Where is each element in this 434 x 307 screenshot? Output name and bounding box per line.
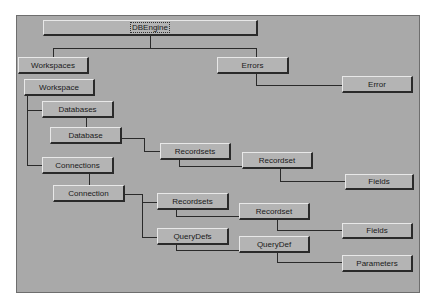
connector bbox=[121, 138, 144, 139]
connector bbox=[176, 216, 239, 217]
node-label: Recordset bbox=[256, 207, 292, 216]
connector bbox=[277, 219, 278, 230]
connector bbox=[277, 252, 278, 262]
connector bbox=[142, 237, 157, 238]
node-label: Recordsets bbox=[175, 147, 215, 156]
connector bbox=[176, 250, 239, 251]
node-label: QueryDefs bbox=[173, 232, 211, 241]
connector bbox=[144, 151, 160, 152]
node-fields: Fields bbox=[342, 223, 413, 239]
node-dbengine: DBEngine bbox=[43, 20, 258, 36]
node-label: Workspaces bbox=[31, 61, 75, 70]
connector bbox=[150, 35, 151, 48]
connector bbox=[27, 165, 42, 166]
connector bbox=[27, 110, 42, 111]
node-recordsets: Recordsets bbox=[160, 143, 231, 160]
connector bbox=[27, 93, 28, 165]
connector bbox=[53, 48, 256, 49]
node-connection: Connection bbox=[53, 185, 125, 202]
node-recordsets: Recordsets bbox=[157, 193, 229, 210]
node-label: Error bbox=[368, 80, 386, 89]
node-label: Fields bbox=[368, 177, 389, 186]
connector bbox=[142, 194, 143, 237]
node-label: Fields bbox=[366, 226, 387, 235]
node-label: QueryDef bbox=[257, 240, 291, 249]
connector bbox=[144, 138, 145, 151]
connector bbox=[280, 181, 345, 182]
node-querydefs: QueryDefs bbox=[157, 228, 229, 245]
node-error: Error bbox=[342, 76, 413, 93]
connector bbox=[277, 262, 342, 263]
connector bbox=[256, 85, 342, 86]
connector bbox=[124, 194, 142, 195]
node-querydef: QueryDef bbox=[239, 236, 310, 253]
connector bbox=[53, 48, 54, 57]
connector bbox=[179, 166, 242, 167]
connector bbox=[142, 202, 157, 203]
node-label: Parameters bbox=[356, 259, 397, 268]
connector bbox=[256, 73, 257, 85]
node-errors: Errors bbox=[217, 57, 289, 74]
node-label: Database bbox=[68, 131, 102, 140]
node-databases: Databases bbox=[42, 101, 114, 118]
node-label: Recordsets bbox=[172, 197, 212, 206]
node-workspaces: Workspaces bbox=[18, 57, 89, 74]
connector bbox=[280, 168, 281, 181]
node-parameters: Parameters bbox=[342, 255, 413, 272]
node-fields: Fields bbox=[345, 174, 414, 190]
node-connections: Connections bbox=[42, 157, 114, 174]
connector bbox=[277, 230, 342, 231]
connector bbox=[89, 174, 90, 185]
node-recordset: Recordset bbox=[239, 203, 310, 220]
node-label: DBEngine bbox=[130, 22, 170, 33]
node-label: Errors bbox=[242, 61, 264, 70]
node-label: Recordset bbox=[259, 156, 295, 165]
node-recordset: Recordset bbox=[242, 152, 313, 169]
node-label: Connections bbox=[55, 161, 99, 170]
connector bbox=[256, 48, 257, 57]
node-label: Connection bbox=[68, 189, 108, 198]
node-label: Databases bbox=[58, 105, 96, 114]
node-workspace: Workspace bbox=[24, 79, 95, 96]
connector bbox=[86, 118, 87, 127]
node-database: Database bbox=[50, 127, 122, 144]
node-label: Workspace bbox=[39, 83, 79, 92]
